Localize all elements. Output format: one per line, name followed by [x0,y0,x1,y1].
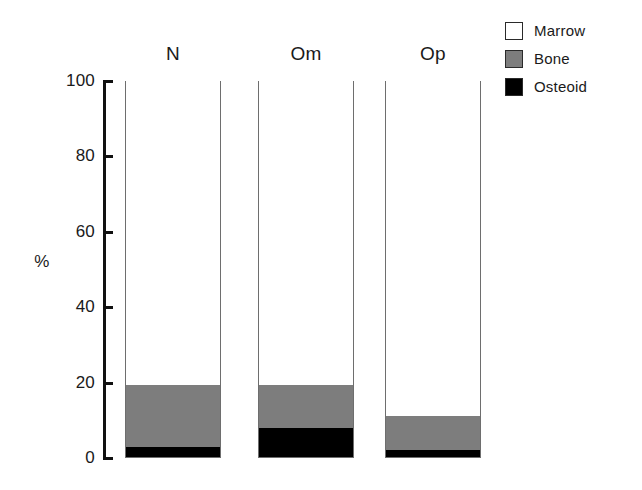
y-tick-label: 0 [49,449,95,466]
segment-bone[interactable] [259,385,353,428]
bar-n[interactable]: N [125,81,221,458]
y-tick-label: 100 [49,72,95,89]
bar-outline [258,81,354,458]
legend-item-bone[interactable]: Bone [505,46,635,71]
segment-osteoid[interactable] [386,450,480,457]
legend-swatch-icon [505,22,523,40]
bar-om[interactable]: Om [258,81,354,458]
segment-marrow[interactable] [259,80,353,385]
bar-category-label: Op [385,43,481,65]
bar-outline [385,81,481,458]
chart-legend: MarrowBoneOsteoid [505,18,635,102]
stacked-bar-chart: % 100806040200 NOmOp MarrowBoneOsteoid [0,0,642,490]
bar-outline [125,81,221,458]
bar-category-label: Om [258,43,354,65]
y-tick-label: 40 [49,298,95,315]
legend-label: Bone [534,50,570,67]
y-tick-label: 20 [49,374,95,391]
legend-item-marrow[interactable]: Marrow [505,18,635,43]
bar-op[interactable]: Op [385,81,481,458]
y-axis-label: % [22,252,62,272]
y-tick-label: 80 [49,147,95,164]
segment-bone[interactable] [126,385,220,447]
segment-osteoid[interactable] [126,447,220,457]
legend-swatch-icon [505,50,523,68]
legend-item-osteoid[interactable]: Osteoid [505,74,635,99]
segment-marrow[interactable] [386,80,480,416]
plot-area: NOmOp [103,81,503,458]
legend-label: Osteoid [534,78,587,95]
segment-osteoid[interactable] [259,428,353,457]
legend-swatch-icon [505,78,523,96]
segment-marrow[interactable] [126,80,220,385]
y-tick-label: 60 [49,223,95,240]
bar-category-label: N [125,43,221,65]
legend-label: Marrow [534,22,585,39]
segment-bone[interactable] [386,416,480,450]
